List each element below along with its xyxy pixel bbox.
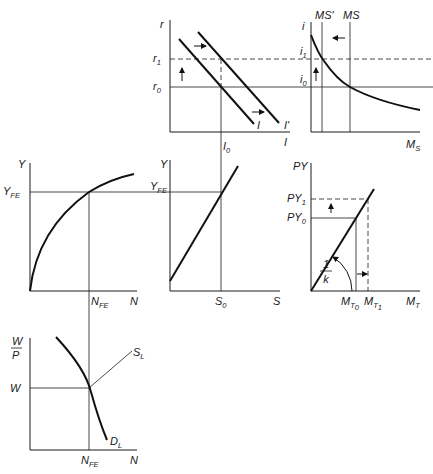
money-demand-panel: PY PY1 PY0 1 k MT0 MT1 MT bbox=[287, 160, 421, 312]
nfe-label-bottom: NFE bbox=[81, 454, 100, 469]
wage-ratio-denominator: P bbox=[12, 349, 20, 361]
md-y-axis-label: PY bbox=[293, 160, 308, 172]
mt0-label: MT0 bbox=[341, 295, 360, 312]
labor-market-panel: W P W SL DL NFE N bbox=[10, 335, 145, 469]
i1-label: i1 bbox=[300, 45, 307, 60]
quantity-theory-line bbox=[311, 189, 374, 291]
investment-curve-i-prime bbox=[198, 32, 279, 123]
investment-x-axis-label: I bbox=[284, 136, 287, 148]
w-label: W bbox=[10, 382, 22, 394]
supply-label: SL bbox=[133, 346, 145, 361]
labor-demand-curve bbox=[56, 337, 107, 440]
ms-prime-label: MS' bbox=[315, 9, 335, 21]
i0-label: I0 bbox=[223, 140, 231, 155]
r0-label: r0 bbox=[153, 80, 162, 95]
savings-function-line bbox=[170, 166, 238, 281]
slope-denominator: k bbox=[323, 273, 329, 285]
classical-model-diagram: r r1 r0 I0 I I' I i i1 i0 MS' bbox=[0, 0, 433, 474]
slope-numerator: 1 bbox=[323, 258, 329, 270]
money-market-panel: i i1 i0 MS' MS MS bbox=[300, 9, 420, 153]
s0-label: S0 bbox=[215, 295, 227, 310]
labor-supply-line bbox=[89, 351, 132, 388]
curve-i-prime-label: I' bbox=[284, 119, 290, 131]
investment-y-axis-label: r bbox=[160, 18, 165, 30]
mt1-label: MT1 bbox=[364, 295, 382, 312]
md-x-axis-label: MT bbox=[406, 295, 421, 310]
py1-label: PY1 bbox=[287, 192, 306, 207]
r1-label: r1 bbox=[153, 52, 161, 67]
production-function-curve bbox=[30, 174, 134, 291]
yfe-label-mid: YFE bbox=[150, 180, 168, 195]
production-y-axis-label: Y bbox=[18, 158, 26, 170]
money-x-axis-label: MS bbox=[406, 138, 420, 153]
i0-rate-label: i0 bbox=[300, 73, 307, 88]
nfe-label-top: NFE bbox=[91, 295, 110, 310]
py0-label: PY0 bbox=[287, 211, 307, 226]
savings-y-axis-label: Y bbox=[160, 158, 168, 170]
wage-ratio-numerator: W bbox=[12, 335, 24, 347]
production-x-axis-label: N bbox=[130, 295, 138, 307]
production-panel: Y YFE NFE N bbox=[3, 158, 221, 450]
savings-x-axis-label: S bbox=[273, 295, 281, 307]
curve-i-label: I bbox=[257, 119, 260, 131]
slope-angle-arc bbox=[333, 257, 352, 291]
yfe-label-left: YFE bbox=[3, 185, 21, 200]
investment-panel: r r1 r0 I0 I I' I bbox=[153, 18, 433, 291]
money-y-axis-label: i bbox=[302, 20, 305, 32]
ms-label: MS bbox=[343, 9, 360, 21]
money-demand-curve bbox=[311, 35, 420, 110]
demand-label: DL bbox=[110, 435, 122, 450]
labor-x-axis-label: N bbox=[130, 454, 138, 466]
savings-panel: Y YFE S0 S bbox=[150, 158, 281, 310]
